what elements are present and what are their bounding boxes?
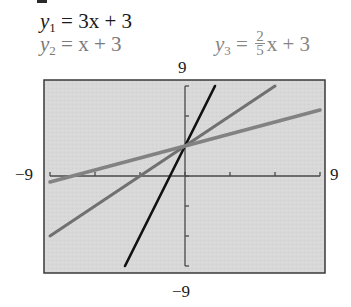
graph-plot [0, 0, 351, 307]
